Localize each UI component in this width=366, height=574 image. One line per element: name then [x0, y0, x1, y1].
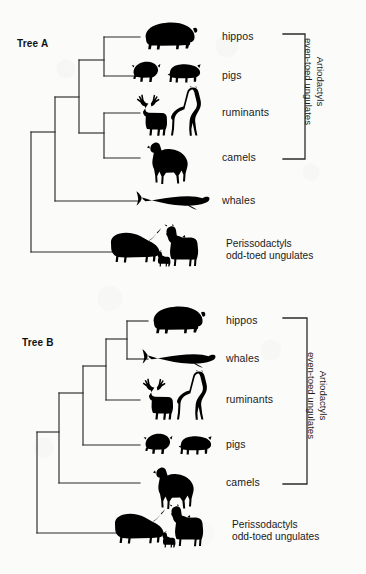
tree-b-panel: Tree B [0, 290, 366, 574]
tip-label-whales-b: whales [226, 352, 259, 364]
silhouette-giraffe [176, 370, 210, 422]
tree-a-panel: Tree A [0, 0, 366, 290]
bracket-label-b: Artiodactyls even-toed ungulates [306, 352, 329, 439]
tip-label-ruminants-b: ruminants [226, 393, 273, 405]
bracket-label-a: Artiodactyls even-toed ungulates [303, 38, 326, 125]
tip-label-pigs-b: pigs [226, 438, 246, 450]
silhouette-foal [154, 250, 171, 267]
tip-label-ruminants-a: ruminants [222, 106, 269, 118]
outgroup-label-b: Perissodactyls odd-toed ungulates [232, 519, 319, 543]
tip-label-camels-a: camels [222, 151, 256, 163]
bracket-label-b-line1: Artiodactyls [318, 352, 330, 439]
silhouette-deer [132, 89, 170, 138]
silhouette-whale [136, 190, 210, 211]
silhouette-hippopotamus [136, 19, 198, 55]
outgroup-label-a: Perissodactyls odd-toed ungulates [226, 238, 313, 262]
bracket-label-b-line2: even-toed ungulates [306, 352, 318, 439]
bracket-label-a-line2: even-toed ungulates [303, 38, 315, 125]
silhouette-foal [159, 531, 176, 548]
silhouette-deer [138, 373, 176, 422]
bracket-label-a-line1: Artiodactyls [315, 38, 327, 125]
silhouette-pig [167, 62, 202, 86]
outgroup-label-a-line2: odd-toed ungulates [226, 250, 313, 262]
tip-label-whales-a: whales [222, 194, 255, 206]
tip-label-hippos-b: hippos [226, 314, 258, 326]
outgroup-label-b-line1: Perissodactyls [232, 519, 319, 531]
silhouette-whale [142, 348, 216, 369]
silhouette-pig [178, 434, 213, 458]
outgroup-label-a-line1: Perissodactyls [226, 238, 313, 250]
tip-label-camels-b: camels [226, 476, 260, 488]
silhouette-hippopotamus [144, 303, 206, 339]
outgroup-label-b-line2: odd-toed ungulates [232, 531, 319, 543]
silhouette-camel [137, 139, 194, 187]
tip-label-pigs-a: pigs [222, 69, 242, 81]
silhouette-boar [143, 432, 173, 459]
tip-label-hippos-a: hippos [222, 30, 254, 42]
silhouette-boar [131, 60, 161, 87]
silhouette-giraffe [170, 86, 204, 138]
